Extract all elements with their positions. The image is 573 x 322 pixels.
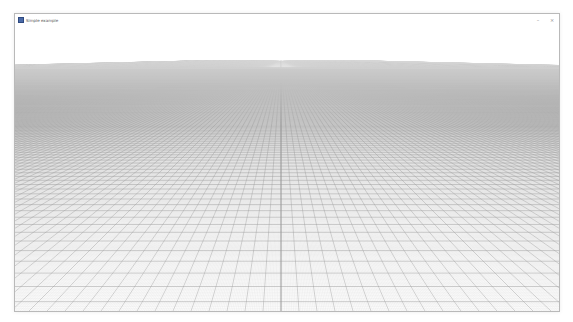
ground-grid xyxy=(15,26,559,311)
title-bar[interactable]: Simple example – × xyxy=(15,14,559,26)
app-icon xyxy=(18,17,24,23)
app-window: Simple example – × xyxy=(14,13,560,312)
window-controls: – × xyxy=(531,14,559,26)
3d-viewport[interactable] xyxy=(15,26,559,311)
close-button[interactable]: × xyxy=(545,14,559,26)
minimize-button[interactable]: – xyxy=(531,14,545,26)
window-title: Simple example xyxy=(26,18,58,23)
